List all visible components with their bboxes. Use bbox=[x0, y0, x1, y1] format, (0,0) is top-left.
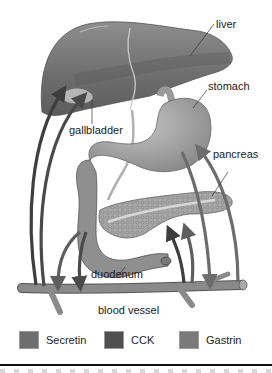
duodenum-opening bbox=[161, 257, 171, 265]
pancreas-organ bbox=[99, 192, 232, 238]
cut-off-caption bbox=[0, 369, 272, 373]
swatch-gastrin bbox=[179, 331, 199, 349]
label-duodenum: duodenum bbox=[91, 268, 143, 280]
legend-cck: CCK bbox=[104, 331, 154, 349]
legend-gastrin: Gastrin bbox=[179, 331, 241, 349]
swatch-cck bbox=[104, 331, 124, 349]
digestive-hormone-diagram bbox=[0, 0, 272, 373]
label-blood-vessel: blood vessel bbox=[98, 304, 159, 316]
legend-label-cck: CCK bbox=[131, 334, 154, 346]
label-gallbladder: gallbladder bbox=[69, 124, 123, 136]
legend-secretin: Secretin bbox=[19, 331, 86, 349]
label-pancreas: pancreas bbox=[213, 148, 258, 160]
legend-label-secretin: Secretin bbox=[46, 334, 86, 346]
arrows-gastrin bbox=[182, 150, 238, 282]
divider-rule bbox=[0, 364, 272, 366]
label-liver: liver bbox=[216, 18, 236, 30]
swatch-secretin bbox=[19, 331, 39, 349]
legend-label-gastrin: Gastrin bbox=[206, 334, 241, 346]
label-stomach: stomach bbox=[208, 80, 250, 92]
